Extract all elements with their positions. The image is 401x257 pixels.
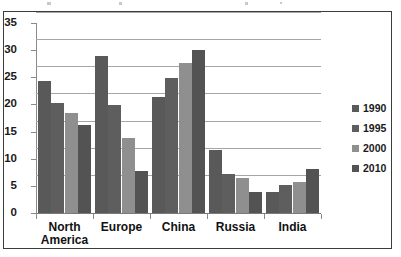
x-tick [150, 214, 151, 219]
legend-swatch-icon [352, 125, 359, 132]
bar-group [152, 23, 206, 213]
y-axis-label: 35 [0, 17, 17, 29]
bar-1990[interactable] [95, 56, 108, 213]
bar-2000[interactable] [122, 138, 135, 213]
x-axis-label: NorthAmerica [36, 221, 93, 247]
legend-item-2000[interactable]: 2000 [352, 138, 400, 158]
gridline-35 [36, 12, 321, 13]
bar-group [266, 23, 320, 213]
bar-2010[interactable] [192, 50, 205, 213]
bar-1995[interactable] [108, 105, 121, 213]
bar-1990[interactable] [152, 97, 165, 213]
legend-label: 1990 [363, 103, 386, 114]
x-axis-label-line: India [264, 221, 321, 234]
bar-1990[interactable] [266, 192, 279, 213]
x-axis-label: Russia [207, 221, 264, 234]
bar-2000[interactable] [293, 182, 306, 213]
plot-area [36, 23, 321, 213]
x-axis-label: China [150, 221, 207, 234]
bar-1995[interactable] [222, 174, 235, 213]
x-axis-label-line: Europe [93, 221, 150, 234]
x-tick [321, 214, 322, 219]
bar-2010[interactable] [306, 169, 319, 213]
legend-item-1990[interactable]: 1990 [352, 98, 400, 118]
legend-swatch-icon [352, 165, 359, 172]
x-axis-label-line: China [150, 221, 207, 234]
legend-swatch-icon [352, 145, 359, 152]
y-axis-label: 10 [0, 153, 17, 165]
bar-1995[interactable] [279, 185, 292, 213]
legend-label: 1995 [363, 123, 386, 134]
x-axis-line [36, 213, 321, 214]
x-axis-label: India [264, 221, 321, 234]
y-axis-label: 0 [0, 207, 17, 219]
x-tick [207, 214, 208, 219]
y-axis-label: 15 [0, 126, 17, 138]
legend-item-2010[interactable]: 2010 [352, 158, 400, 178]
bar-2010[interactable] [249, 192, 262, 213]
y-axis-label: 25 [0, 71, 17, 83]
x-axis-label: Europe [93, 221, 150, 234]
legend-swatch-icon [352, 105, 359, 112]
bar-2010[interactable] [78, 125, 91, 213]
y-axis-label: 5 [0, 180, 17, 192]
y-axis-label: 30 [0, 44, 17, 56]
bar-1990[interactable] [38, 81, 51, 213]
bar-2010[interactable] [135, 171, 148, 213]
chart-container: 05101520253035 NorthAmericaEuropeChinaRu… [3, 11, 392, 249]
legend-item-1995[interactable]: 1995 [352, 118, 400, 138]
cropped-title-artifact [0, 0, 401, 9]
bar-group [95, 23, 149, 213]
y-axis-label: 20 [0, 98, 17, 110]
bar-group [209, 23, 263, 213]
x-axis-label-line: Russia [207, 221, 264, 234]
chart-legend: 1990199520002010 [352, 98, 400, 178]
bar-1995[interactable] [165, 78, 178, 213]
bar-2000[interactable] [236, 178, 249, 213]
x-tick [264, 214, 265, 219]
x-tick [93, 214, 94, 219]
x-axis-label-line: America [36, 234, 93, 247]
bar-1990[interactable] [209, 150, 222, 213]
bar-2000[interactable] [65, 113, 78, 213]
legend-label: 2010 [363, 163, 386, 174]
bar-2000[interactable] [179, 63, 192, 213]
bar-1995[interactable] [51, 103, 64, 213]
bar-group [38, 23, 92, 213]
x-tick [36, 214, 37, 219]
legend-label: 2000 [363, 143, 386, 154]
